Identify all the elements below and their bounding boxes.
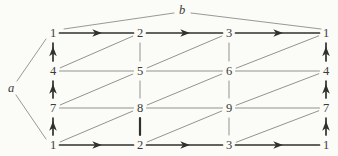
grid-number-r1c2: 6 bbox=[226, 64, 232, 78]
grid-number-r3c2: 3 bbox=[226, 138, 232, 152]
generator-label-b: b bbox=[179, 3, 185, 17]
connector-line bbox=[147, 36, 222, 68]
connector-line bbox=[236, 111, 319, 142]
grid-number-r2c0: 7 bbox=[50, 101, 56, 115]
edges-layer bbox=[49, 29, 330, 149]
label-leader-line bbox=[191, 13, 321, 29]
grid-number-r3c3: 1 bbox=[323, 138, 329, 152]
cayley-diagram: 1231456478971231 ba bbox=[0, 0, 338, 156]
grid-number-r0c2: 3 bbox=[226, 26, 232, 40]
label-leader-line bbox=[16, 95, 46, 139]
connector-line bbox=[236, 36, 319, 68]
connector-line bbox=[147, 111, 222, 142]
grid-number-r0c3: 1 bbox=[323, 26, 329, 40]
connector-line bbox=[60, 111, 133, 142]
grid-numbers-layer: 1231456478971231 bbox=[50, 26, 330, 152]
connector-line bbox=[60, 36, 133, 68]
grid-number-r0c0: 1 bbox=[50, 26, 56, 40]
connector-line bbox=[60, 74, 133, 105]
label-leader-line bbox=[17, 39, 46, 81]
torus-grid-figure: 1231456478971231 ba bbox=[0, 0, 338, 156]
grid-number-r0c1: 2 bbox=[137, 26, 143, 40]
generator-labels-layer: ba bbox=[8, 3, 185, 95]
grid-number-r2c3: 7 bbox=[323, 101, 329, 115]
grid-number-r3c1: 2 bbox=[137, 138, 143, 152]
label-leader-line bbox=[64, 13, 174, 29]
generator-label-a: a bbox=[8, 81, 14, 95]
connector-line bbox=[236, 74, 319, 105]
grid-number-r3c0: 1 bbox=[50, 138, 56, 152]
grid-number-r1c0: 4 bbox=[50, 64, 57, 78]
connector-line bbox=[147, 74, 222, 105]
grid-number-r2c2: 9 bbox=[226, 101, 232, 115]
grid-number-r2c1: 8 bbox=[137, 101, 143, 115]
grid-number-r1c3: 4 bbox=[323, 64, 330, 78]
grid-number-r1c1: 5 bbox=[137, 64, 143, 78]
